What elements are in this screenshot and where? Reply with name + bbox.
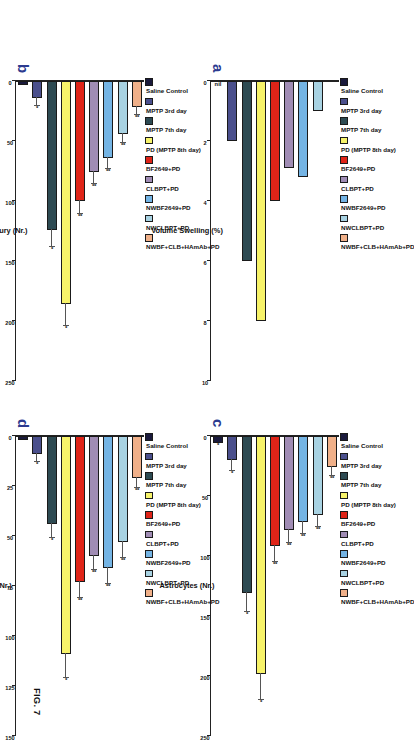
significance-marker: ** <box>78 597 82 603</box>
significance-marker: ** <box>121 142 125 148</box>
error-bar <box>136 106 137 113</box>
legend-label: BF2649+PD <box>341 165 375 172</box>
significance-marker: ** <box>106 583 110 589</box>
panel-a: Saline ControlMPTP 3rd dayMPTP 7th dayPD… <box>177 40 395 380</box>
bar <box>327 436 337 467</box>
legend-swatch-icon <box>145 215 153 223</box>
legend-label: NWBF2649+PD <box>146 559 191 566</box>
error-bar <box>231 459 232 470</box>
bar <box>242 81 252 261</box>
x-axis-tick-label: 100 <box>5 200 14 206</box>
legend-label: BF2649+PD <box>146 165 180 172</box>
x-axis-tick-label: 4 <box>203 200 206 206</box>
x-axis-tick-label: 0 <box>203 435 206 441</box>
error-bar <box>51 523 52 537</box>
legend-panel-d: Saline ControlMPTP 3rd dayMPTP 7th dayPD… <box>144 395 200 695</box>
legend-label: NWBF+CLB+HAmAb+PD <box>146 243 219 250</box>
significance-marker: * <box>51 246 53 252</box>
legend-label: BF2649+PD <box>146 520 180 527</box>
legend-swatch-icon <box>145 117 153 125</box>
legend-label: MPTP 7th day <box>341 126 381 133</box>
legend-swatch-icon <box>145 433 153 441</box>
legend-swatch-icon <box>340 78 348 86</box>
legend-swatch-icon <box>145 98 153 106</box>
legend-swatch-icon <box>145 156 153 164</box>
bar <box>75 81 85 201</box>
legend-label: NWBF2649+PD <box>341 559 386 566</box>
error-bar <box>260 673 261 699</box>
significance-marker: * <box>51 537 53 543</box>
bar <box>103 81 113 158</box>
x-axis-tick-label: 0 <box>8 80 11 86</box>
bar <box>118 81 128 134</box>
x-axis-tick-label: 150 <box>200 615 209 621</box>
legend-swatch-icon <box>340 215 348 223</box>
legend-label: NWBF+CLB+HAmAb+PD <box>146 598 219 605</box>
bar <box>256 81 266 321</box>
x-axis-tick-label: 50 <box>202 495 208 501</box>
legend-label: MPTP 3rd day <box>341 107 382 114</box>
error-bar <box>93 555 94 569</box>
legend-swatch-icon <box>145 492 153 500</box>
error-bar <box>79 200 80 213</box>
significance-marker: ** <box>121 557 125 563</box>
significance-marker: * <box>217 442 219 448</box>
legend-label: MPTP 3rd day <box>146 107 187 114</box>
x-axis-tick-label: 50 <box>7 535 13 541</box>
legend-panel-a: Saline ControlMPTP 3rd dayMPTP 7th dayPD… <box>339 40 395 340</box>
legend-swatch-icon <box>145 453 153 461</box>
x-axis-tick <box>207 260 211 261</box>
legend-swatch-icon <box>145 195 153 203</box>
x-axis-title: Neuronal Injury (Nr.) <box>0 226 28 235</box>
bar <box>256 436 266 674</box>
significance-marker: ** <box>135 487 139 493</box>
x-axis-tick <box>207 200 211 201</box>
error-bar <box>136 477 137 487</box>
legend-swatch-icon <box>340 453 348 461</box>
bar <box>313 436 323 515</box>
error-bar <box>317 514 318 526</box>
legend-panel-c: Saline ControlMPTP 3rd dayMPTP 7th dayPD… <box>339 395 395 695</box>
significance-marker: * <box>231 470 233 476</box>
legend-panel-b: Saline ControlMPTP 3rd dayMPTP 7th dayPD… <box>144 40 200 340</box>
x-axis-tick <box>207 140 211 141</box>
x-axis-tick-label: 50 <box>7 140 13 146</box>
panel-c: Saline ControlMPTP 3rd dayMPTP 7th dayPD… <box>177 395 395 735</box>
x-axis-tick-label: 200 <box>200 675 209 681</box>
x-axis-tick-label: 8 <box>203 320 206 326</box>
x-axis-tick <box>12 435 16 436</box>
legend-label: NWBF+CLB+HAmAb+PD <box>341 598 414 605</box>
significance-marker: * <box>246 611 248 617</box>
significance-marker: * <box>260 699 262 705</box>
panel-d: Saline ControlMPTP 3rd dayMPTP 7th dayPD… <box>0 395 200 735</box>
figure-caption: FIG. 7 <box>32 688 43 716</box>
legend-swatch-icon <box>145 137 153 145</box>
bar <box>118 436 128 542</box>
legend-swatch-icon <box>340 156 348 164</box>
legend-label: Saline Control <box>146 87 188 94</box>
bar <box>227 81 237 141</box>
legend-swatch-icon <box>340 98 348 106</box>
legend-swatch-icon <box>340 589 348 597</box>
bar <box>298 436 308 522</box>
bar <box>18 436 28 440</box>
error-bar <box>246 592 247 611</box>
error-bar <box>36 453 37 461</box>
legend-swatch-icon <box>145 589 153 597</box>
legend-label: PD (MPTP 8th day) <box>146 146 201 153</box>
bar <box>47 436 57 524</box>
legend-label: MPTP 3rd day <box>341 462 382 469</box>
bar <box>89 81 99 172</box>
bar <box>284 436 294 530</box>
plot-area-a: 0246810Volume Swelling (%)nil <box>211 80 339 380</box>
x-axis-tick-label: 100 <box>5 635 14 641</box>
error-bar <box>122 133 123 143</box>
error-bar <box>303 521 304 533</box>
bar <box>284 81 294 168</box>
bar <box>132 436 142 478</box>
legend-label: CLBPT+PD <box>146 540 179 547</box>
legend-label: CLBPT+PD <box>341 185 374 192</box>
significance-marker: * <box>65 677 67 683</box>
panel-letter-a: a <box>210 64 227 72</box>
plot-area-c: 050100150200250Astrocytes (Nr.)*********… <box>211 435 339 735</box>
